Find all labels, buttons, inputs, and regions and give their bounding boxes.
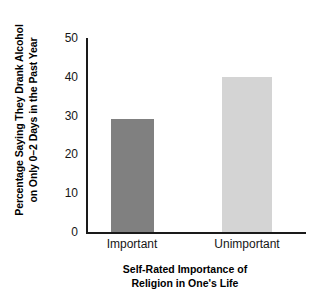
x-axis-line [86, 232, 306, 234]
y-axis-tick-labels: 0 10 20 30 40 50 [0, 0, 86, 232]
y-tick-label-30: 30 [38, 110, 78, 122]
bar-chart-figure: Percentage Saying They Drank Alcohol on … [0, 0, 323, 302]
y-tick-label-0: 0 [38, 226, 78, 238]
x-tick-label-important: Important [107, 237, 158, 251]
y-axis-line [86, 38, 88, 232]
y-tick-label-50: 50 [38, 32, 78, 44]
x-axis-tick-labels: Important Unimportant [86, 237, 306, 257]
plot-area [86, 38, 306, 232]
bar-unimportant [222, 77, 272, 232]
y-tick-label-10: 10 [38, 187, 78, 199]
x-axis-title-line-2: Religion in One's Life [60, 276, 310, 290]
y-tick-label-40: 40 [38, 71, 78, 83]
x-tick-label-unimportant: Unimportant [214, 237, 279, 251]
y-tick-label-20: 20 [38, 148, 78, 160]
x-axis-title: Self-Rated Importance of Religion in One… [60, 262, 310, 290]
x-axis-title-line-1: Self-Rated Importance of [60, 262, 310, 276]
bar-important [111, 119, 154, 232]
